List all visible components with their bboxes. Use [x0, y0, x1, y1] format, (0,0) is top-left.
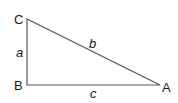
side-label-b: b [89, 36, 96, 51]
vertex-label-c: C [14, 12, 23, 27]
vertex-label-a: A [162, 80, 171, 95]
side-label-c: c [90, 86, 97, 101]
side-label-a: a [16, 45, 23, 60]
vertex-label-b: B [14, 78, 23, 93]
triangle-diagram: C B A a b c [0, 0, 178, 103]
triangle-shape [27, 19, 160, 85]
